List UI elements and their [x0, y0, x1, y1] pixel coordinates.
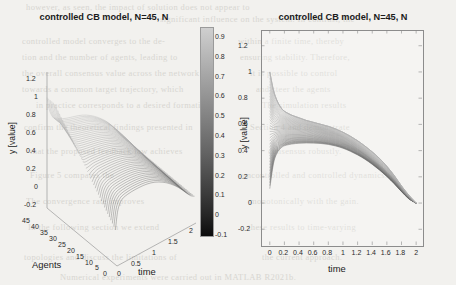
waterfall-curve: [98, 165, 177, 194]
colorbar-tick-4: 0.5: [215, 112, 225, 119]
colorbar-tick-9: 0: [215, 211, 219, 218]
colorbar-tick-8: 0.1: [215, 191, 225, 198]
trajectory-curve: [270, 96, 416, 203]
colorbar-tick-2: 0.7: [215, 73, 225, 80]
trajectory-curve: [270, 142, 416, 203]
trajectory-curve: [270, 141, 416, 203]
trajectory-curve: [270, 140, 416, 203]
axes-3d-frame: [47, 72, 196, 266]
surface-waterfall-curves: [47, 98, 194, 230]
colorbar-tick-7: 0.2: [215, 172, 225, 179]
waterfall-curve: [103, 170, 182, 204]
trajectory-curve: [270, 141, 416, 203]
trajectory-curve: [270, 142, 416, 203]
trajectory-curve: [270, 114, 416, 203]
trajectory-curve: [270, 117, 416, 204]
trajectory-curve: [270, 143, 416, 203]
trajectory-curve: [270, 139, 416, 203]
colorbar-tick-1: 0.8: [215, 53, 225, 60]
figure-canvas: however, as seen, the impact of solution…: [0, 0, 456, 285]
trajectory-curve: [270, 111, 416, 203]
trajectory-curves: [270, 72, 416, 203]
right-plot-canvas: [228, 0, 456, 285]
colorbar-tick-10: -0.1: [215, 231, 227, 238]
colorbar-tick-0: 0.9: [215, 33, 225, 40]
waterfall-curve: [100, 167, 179, 198]
left-plot-canvas: [0, 0, 228, 285]
colorbar-tick-5: 0.4: [215, 132, 225, 139]
colorbar-gradient[interactable]: [200, 27, 214, 237]
trajectory-curve: [270, 119, 416, 203]
colorbar-tick-6: 0.3: [215, 152, 225, 159]
panel-2d-trajectories: controlled CB model, N=45, N y [value] t…: [228, 0, 456, 285]
trajectory-curve: [270, 99, 416, 203]
waterfall-curve: [52, 101, 131, 143]
colorbar-tick-3: 0.6: [215, 92, 225, 99]
trajectory-curve: [270, 102, 416, 203]
panel-3d-surface: controlled CB model, N=45, N 1.2 1 0.8 0…: [0, 0, 228, 285]
trajectory-curve: [270, 143, 416, 204]
waterfall-curve: [53, 103, 132, 145]
